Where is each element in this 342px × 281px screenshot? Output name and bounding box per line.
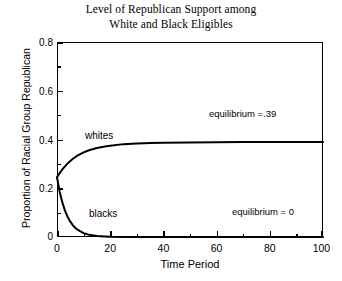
series-line-whites [57,142,323,177]
x-axis-label: Time Period [57,258,323,270]
x-tick-label-60: 60 [211,242,223,254]
x-tick-label-40: 40 [158,242,170,254]
y-axis-label: Proportion of Racial Group Republican [20,28,32,248]
chart-title-line-1: Level of Republican Support among [0,2,342,17]
x-tick-label-0: 0 [54,242,60,254]
plot-area: 0.8 0.6 0.4 0.2 0 0 20 40 60 80 100 [57,42,323,237]
whites-curve-label: whites [85,130,113,141]
x-tick-label-20: 20 [104,242,116,254]
chart-title-line-2: White and Black Eligibles [0,17,342,32]
blacks-curve-label: blacks [89,208,117,219]
y-tick-label-0.6: 0.6 [39,85,53,96]
x-tick-label-80: 80 [264,242,276,254]
white-equilibrium-note: equilibrium =.39 [209,108,276,119]
black-equilibrium-note: equilibrium = 0 [232,206,294,217]
y-tick-label-0.8: 0.8 [39,37,53,48]
y-tick-label-0: 0 [47,230,53,241]
y-tick-label-0.2: 0.2 [39,183,53,194]
chart-title: Level of Republican Support among White … [0,2,342,31]
chart-figure: Level of Republican Support among White … [0,0,342,281]
x-tick-label-100: 100 [313,242,331,254]
y-tick-label-0.4: 0.4 [39,134,53,145]
